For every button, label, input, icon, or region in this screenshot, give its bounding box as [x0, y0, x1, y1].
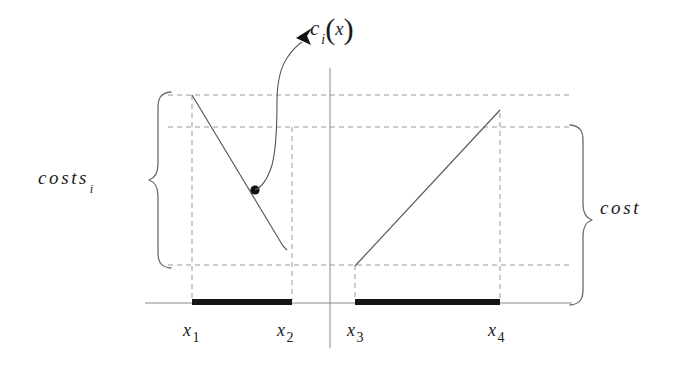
cost-label: cost	[600, 198, 641, 217]
x-tick-label-1-name: x	[183, 320, 191, 340]
function-label-arg: x	[335, 19, 343, 39]
horizontal-gridlines	[168, 95, 570, 265]
function-label-index: i	[321, 32, 326, 47]
x-tick-label-2: x2	[277, 321, 292, 339]
costs-i-label-text: costs	[38, 167, 89, 188]
x-tick-label-4-subscript: 4	[497, 329, 504, 345]
cost-curve-right-ascending	[355, 110, 500, 266]
x-tick-label-1-subscript: 1	[192, 329, 199, 345]
cost-label-text: cost	[600, 197, 641, 218]
right-brace	[570, 125, 592, 305]
x-tick-label-3-name: x	[347, 320, 355, 340]
function-label-close-paren: )	[344, 12, 354, 46]
cost-curve-left-descending	[192, 95, 287, 250]
function-label-name: c	[310, 16, 320, 40]
costs-i-label: costsi	[38, 168, 95, 191]
x-tick-label-4-name: x	[488, 320, 496, 340]
vertical-droplines	[192, 95, 500, 300]
function-label: ci(x)	[310, 14, 354, 44]
x-tick-label-3-subscript: 3	[356, 329, 363, 345]
x-tick-label-4: x4	[488, 321, 503, 339]
left-brace	[149, 92, 171, 268]
x-tick-label-2-name: x	[277, 320, 285, 340]
diagram-canvas	[0, 0, 688, 367]
x-tick-label-2-subscript: 2	[286, 329, 293, 345]
cost-function-diagram: costsi cost ci(x) x1 x2 x3 x4	[0, 0, 688, 367]
leader-line	[255, 42, 302, 190]
x-tick-label-1: x1	[183, 321, 198, 339]
x-tick-label-3: x3	[347, 321, 362, 339]
function-label-open-paren: (	[325, 12, 335, 46]
costs-i-label-subscript: i	[90, 182, 96, 196]
